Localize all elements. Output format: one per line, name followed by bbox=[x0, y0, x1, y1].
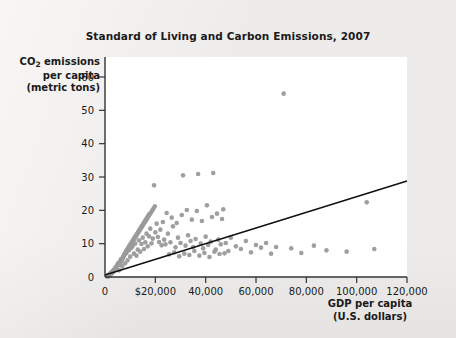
data-point bbox=[217, 252, 222, 257]
data-point bbox=[215, 211, 220, 216]
data-point bbox=[195, 209, 200, 214]
data-point bbox=[187, 253, 192, 258]
data-point bbox=[173, 245, 178, 250]
data-point bbox=[190, 217, 195, 222]
data-point bbox=[186, 233, 191, 238]
data-point bbox=[259, 245, 264, 250]
data-point bbox=[344, 249, 349, 254]
data-point bbox=[140, 235, 145, 240]
y-tick-label: 20 bbox=[81, 205, 94, 216]
data-point bbox=[152, 183, 157, 188]
data-point bbox=[138, 249, 143, 254]
data-point bbox=[324, 248, 329, 253]
chart-figure: Standard of Living and Carbon Emissions,… bbox=[0, 0, 456, 338]
x-tick-label: 80,000 bbox=[289, 286, 324, 297]
data-point bbox=[181, 173, 186, 178]
data-point bbox=[178, 241, 183, 246]
data-point bbox=[200, 219, 205, 224]
data-point bbox=[281, 91, 286, 96]
data-point bbox=[148, 226, 153, 231]
data-point bbox=[264, 241, 269, 246]
data-point bbox=[222, 251, 227, 256]
data-point bbox=[147, 212, 152, 217]
data-point bbox=[153, 230, 158, 235]
data-point bbox=[269, 251, 274, 256]
data-point bbox=[171, 224, 176, 229]
data-point bbox=[224, 241, 229, 246]
data-point bbox=[299, 251, 304, 256]
scatter-plot: 0$20,00040,00060,00080,000100,000120,000… bbox=[0, 0, 456, 338]
data-point bbox=[221, 207, 226, 212]
data-point bbox=[289, 246, 294, 251]
data-point bbox=[205, 203, 210, 208]
data-point bbox=[192, 249, 197, 254]
data-point bbox=[274, 245, 279, 250]
y-axis-tick-labels: 0102030405060 bbox=[81, 72, 94, 283]
data-point bbox=[234, 244, 239, 249]
data-point bbox=[142, 247, 147, 252]
data-point bbox=[182, 251, 187, 256]
data-point bbox=[197, 253, 202, 258]
y-tick-label: 50 bbox=[81, 105, 94, 116]
data-point bbox=[254, 243, 259, 248]
data-point bbox=[196, 172, 201, 177]
x-tick-label: 120,000 bbox=[386, 286, 427, 297]
data-point bbox=[166, 231, 171, 236]
y-tick-label: 30 bbox=[81, 172, 94, 183]
data-point bbox=[202, 251, 207, 256]
data-point bbox=[212, 249, 217, 254]
data-point bbox=[193, 237, 198, 242]
data-point bbox=[211, 171, 216, 176]
y-axis-tick-marks bbox=[99, 77, 105, 244]
data-point bbox=[249, 250, 254, 255]
data-point bbox=[201, 246, 206, 251]
x-tick-label: 0 bbox=[102, 286, 108, 297]
data-point bbox=[169, 215, 174, 220]
data-point bbox=[153, 204, 158, 209]
x-tick-label: 100,000 bbox=[336, 286, 377, 297]
data-point bbox=[210, 215, 215, 220]
data-point bbox=[184, 208, 189, 213]
data-point bbox=[188, 239, 193, 244]
data-point bbox=[218, 242, 223, 247]
data-point bbox=[163, 242, 168, 247]
data-point bbox=[174, 221, 179, 226]
data-point bbox=[207, 255, 212, 260]
y-tick-label: 10 bbox=[81, 238, 94, 249]
data-point bbox=[154, 221, 159, 226]
data-point bbox=[220, 217, 225, 222]
data-point bbox=[168, 240, 173, 245]
data-point bbox=[176, 235, 181, 240]
data-point bbox=[312, 243, 317, 248]
data-point bbox=[183, 243, 188, 248]
data-point bbox=[177, 254, 182, 259]
x-tick-label: 60,000 bbox=[239, 286, 274, 297]
x-tick-label: $20,000 bbox=[135, 286, 176, 297]
data-point bbox=[179, 213, 184, 218]
x-axis-tick-marks bbox=[155, 277, 407, 283]
data-point bbox=[143, 240, 148, 245]
data-point bbox=[149, 241, 154, 246]
data-point bbox=[239, 247, 244, 252]
data-point bbox=[372, 247, 377, 252]
x-tick-label: 40,000 bbox=[188, 286, 223, 297]
data-point bbox=[162, 237, 167, 242]
y-tick-label: 40 bbox=[81, 138, 94, 149]
y-tick-label: 0 bbox=[88, 272, 94, 283]
data-point bbox=[244, 239, 249, 244]
data-point bbox=[145, 244, 150, 249]
data-point bbox=[364, 200, 369, 205]
data-point bbox=[158, 227, 163, 232]
data-point bbox=[203, 234, 208, 239]
y-tick-label: 60 bbox=[81, 72, 94, 83]
data-point bbox=[164, 211, 169, 216]
x-axis-tick-labels: 0$20,00040,00060,00080,000100,000120,000 bbox=[102, 286, 428, 297]
data-point bbox=[134, 253, 139, 258]
data-point bbox=[128, 254, 133, 259]
data-point bbox=[151, 236, 156, 241]
data-point bbox=[156, 235, 161, 240]
data-point bbox=[161, 220, 166, 225]
